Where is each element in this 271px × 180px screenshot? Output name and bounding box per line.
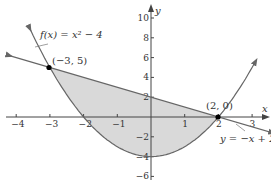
y-tick-label: −2 (136, 132, 149, 142)
y-tick-label: 8 (143, 33, 149, 43)
y-tick-label: 10 (138, 13, 150, 23)
x-axis-label: x (262, 103, 268, 114)
x-tick-label: −4 (11, 119, 25, 129)
y-tick-label: 6 (143, 53, 149, 63)
point-a-label: (−3, 5) (52, 55, 87, 66)
chart-container: −4−3−2−1123 108642−2−4−6 (−3, 5) (2, 0) … (0, 0, 271, 180)
y-tick-label: 4 (143, 72, 149, 82)
point-b-label: (2, 0) (206, 100, 233, 111)
intersection-point-a (46, 65, 51, 70)
x-tick-label: 1 (182, 119, 188, 129)
y-tick-label: 2 (143, 92, 149, 102)
x-tick-label: −3 (45, 119, 59, 129)
x-tick-label: 2 (216, 119, 222, 129)
shaded-region (50, 68, 219, 157)
intersection-point-b (215, 114, 220, 119)
line-label-leader (236, 124, 245, 131)
y-tick-label: −6 (136, 171, 150, 180)
chart-svg: −4−3−2−1123 108642−2−4−6 (−3, 5) (2, 0) … (0, 0, 271, 180)
parabola-label: f(x) = x² − 4 (39, 29, 103, 40)
x-tick-label: −1 (112, 119, 125, 129)
y-axis-label: y (154, 5, 161, 16)
line-label: y = −x + 2 (219, 133, 271, 144)
